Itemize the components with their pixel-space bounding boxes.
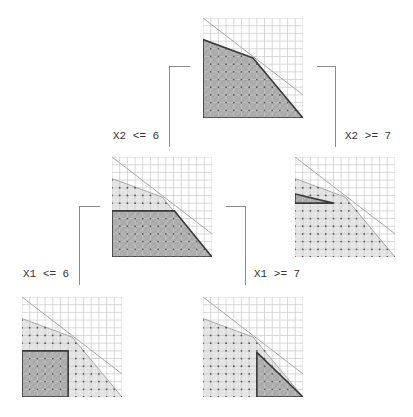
integer-point [188, 241, 190, 243]
integer-point [348, 233, 350, 235]
integer-point [241, 86, 243, 88]
integer-point [52, 365, 54, 367]
integer-point [309, 241, 311, 243]
integer-point [309, 195, 311, 197]
integer-point [248, 71, 250, 73]
integer-point [356, 210, 358, 212]
integer-point [356, 218, 358, 220]
integer-point [248, 94, 250, 96]
integer-point [119, 225, 121, 227]
integer-point [225, 63, 227, 65]
integer-point [363, 233, 365, 235]
integer-point [256, 94, 258, 96]
plot-x2-le-6 [112, 157, 212, 257]
integer-point [256, 79, 258, 81]
integer-point [233, 102, 235, 104]
integer-point [119, 195, 121, 197]
integer-point [309, 248, 311, 250]
integer-point [241, 56, 243, 58]
integer-point [180, 233, 182, 235]
integer-point [241, 365, 243, 367]
integer-point [106, 381, 108, 383]
integer-point [173, 225, 175, 227]
integer-point [119, 241, 121, 243]
integer-point [241, 79, 243, 81]
integer-point [142, 248, 144, 250]
integer-point [217, 335, 219, 337]
integer-point [287, 102, 289, 104]
integer-point [241, 71, 243, 73]
integer-point [233, 109, 235, 111]
integer-point [75, 358, 77, 360]
connector-root-left [169, 66, 190, 147]
integer-point [196, 248, 198, 250]
integer-point [248, 381, 250, 383]
integer-point [165, 248, 167, 250]
integer-point [348, 248, 350, 250]
integer-point [134, 248, 136, 250]
integer-point [157, 202, 159, 204]
integer-point [302, 210, 304, 212]
integer-point [233, 335, 235, 337]
integer-point [386, 248, 388, 250]
integer-point [248, 63, 250, 65]
integer-point [217, 48, 219, 50]
integer-point [279, 102, 281, 104]
plot-x1-ge-7-svg [203, 297, 303, 397]
integer-point [60, 381, 62, 383]
integer-point [309, 187, 311, 189]
integer-point [225, 381, 227, 383]
integer-point [75, 373, 77, 375]
plot-root [203, 18, 303, 118]
integer-point [225, 56, 227, 58]
integer-point [225, 342, 227, 344]
integer-point [217, 350, 219, 352]
integer-point [142, 218, 144, 220]
connector-root-right [317, 66, 336, 147]
integer-point [119, 187, 121, 189]
integer-point [52, 358, 54, 360]
integer-point [36, 365, 38, 367]
integer-point [241, 373, 243, 375]
integer-point [44, 388, 46, 390]
integer-point [225, 388, 227, 390]
integer-point [309, 225, 311, 227]
integer-point [29, 327, 31, 329]
integer-point [233, 71, 235, 73]
integer-point [157, 248, 159, 250]
integer-point [271, 388, 273, 390]
integer-point [134, 225, 136, 227]
integer-point [188, 233, 190, 235]
integer-point [348, 210, 350, 212]
integer-point [210, 335, 212, 337]
integer-point [210, 365, 212, 367]
integer-point [317, 210, 319, 212]
integer-point [217, 86, 219, 88]
integer-point [248, 342, 250, 344]
integer-point [225, 335, 227, 337]
integer-point [309, 218, 311, 220]
integer-point [29, 373, 31, 375]
integer-point [126, 233, 128, 235]
integer-point [126, 248, 128, 250]
integer-point [83, 373, 85, 375]
integer-point [29, 381, 31, 383]
integer-point [217, 373, 219, 375]
integer-point [150, 195, 152, 197]
integer-point [233, 365, 235, 367]
integer-point [317, 218, 319, 220]
integer-point [317, 248, 319, 250]
integer-point [233, 358, 235, 360]
integer-point [248, 79, 250, 81]
integer-point [248, 373, 250, 375]
integer-point [233, 94, 235, 96]
integer-point [180, 248, 182, 250]
integer-point [340, 218, 342, 220]
integer-point [241, 63, 243, 65]
plot-x1-ge-7 [203, 297, 303, 397]
branch-label-x2-ge-7: X2 >= 7 [345, 130, 391, 142]
plot-x1-le-6-svg [22, 297, 122, 397]
integer-point [264, 388, 266, 390]
integer-point [225, 358, 227, 360]
integer-point [210, 102, 212, 104]
